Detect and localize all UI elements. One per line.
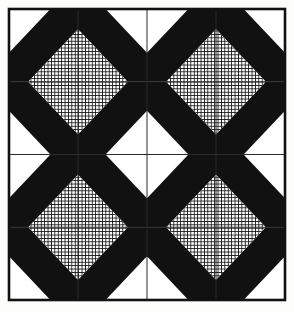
screenshot-canvas: [0, 0, 294, 312]
quilt-pattern-svg: [0, 0, 294, 312]
quilt-pattern-figure: [0, 0, 294, 312]
